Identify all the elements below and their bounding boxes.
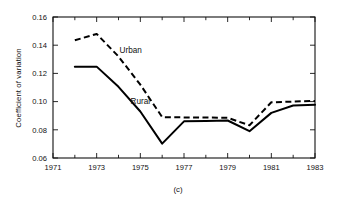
x-tick-label: 1977 — [176, 163, 193, 172]
series-label-urban: Urban — [120, 46, 143, 55]
y-tick-label: 0.08 — [32, 126, 47, 135]
figure-caption: (c) — [173, 185, 182, 194]
x-tick-label: 1973 — [88, 163, 105, 172]
x-axis-ticks — [53, 17, 315, 158]
series-label-rural: Rural — [131, 97, 151, 106]
y-tick-label: 0.10 — [32, 97, 47, 106]
y-axis-ticks — [53, 17, 315, 158]
chart-svg: 0.060.080.100.120.140.16 197119731975197… — [0, 0, 337, 208]
y-tick-label: 0.16 — [32, 13, 47, 22]
y-tick-label: 0.06 — [32, 154, 47, 163]
plot-area-frame — [53, 17, 315, 158]
x-tick-label: 1979 — [219, 163, 236, 172]
y-tick-label: 0.14 — [32, 41, 47, 50]
x-tick-label: 1981 — [263, 163, 280, 172]
series-line-rural — [75, 67, 315, 144]
y-tick-label: 0.12 — [32, 69, 47, 78]
y-axis-tick-labels: 0.060.080.100.120.140.16 — [32, 13, 47, 163]
figure-panel-c: 0.060.080.100.120.140.16 197119731975197… — [0, 0, 337, 208]
x-tick-label: 1983 — [307, 163, 324, 172]
y-axis-title: Coefficient of variation — [14, 48, 23, 127]
x-axis-tick-labels: 1971197319751977197919811983 — [45, 163, 324, 172]
x-tick-label: 1971 — [45, 163, 62, 172]
x-tick-label: 1975 — [132, 163, 149, 172]
